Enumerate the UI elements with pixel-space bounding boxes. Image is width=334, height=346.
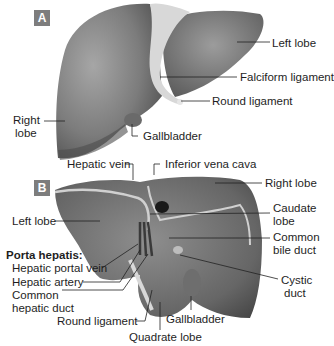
label-b-round-ligament: Round ligament [57, 315, 138, 328]
label-a-right-lobe-2: lobe [15, 127, 37, 140]
label-b-inferior-vena-cava: Inferior vena cava [165, 158, 256, 171]
label-a-left-lobe: Left lobe [272, 37, 316, 50]
label-b-cystic-duct-1: Cystic [281, 274, 312, 287]
label-b-hepatic-portal-vein: Hepatic portal vein [12, 262, 107, 275]
label-b-hepatic-vein: Hepatic vein [67, 158, 130, 171]
label-b-hepatic-artery: Hepatic artery [12, 276, 84, 289]
label-b-right-lobe: Right lobe [265, 177, 317, 190]
label-a-gallbladder: Gallbladder [143, 130, 202, 143]
label-b-gallbladder: Gallbladder [166, 313, 225, 326]
label-b-common-hepatic-duct-1: Common [12, 289, 59, 302]
panel-b-liver [55, 177, 262, 318]
panel-b-badge: B [34, 180, 50, 196]
label-b-common-bile-duct-2: bile duct [273, 244, 316, 257]
label-a-right-lobe-1: Right [13, 114, 40, 127]
label-b-caudate-lobe-2: lobe [273, 215, 295, 228]
label-a-round-ligament: Round ligament [212, 95, 293, 108]
label-b-common-bile-duct-1: Common [273, 231, 320, 244]
label-b-caudate-lobe-1: Caudate [273, 202, 316, 215]
label-b-cystic-duct-2: duct [284, 287, 306, 300]
label-b-common-hepatic-duct-2: hepatic duct [12, 302, 74, 315]
panel-a-badge: A [34, 10, 50, 26]
label-b-quadrate-lobe: Quadrate lobe [129, 331, 202, 344]
label-b-left-lobe: Left lobe [12, 215, 56, 228]
label-b-porta-hepatis: Porta hepatis: [6, 249, 83, 262]
label-a-falciform-ligament: Falciform ligament [240, 71, 334, 84]
